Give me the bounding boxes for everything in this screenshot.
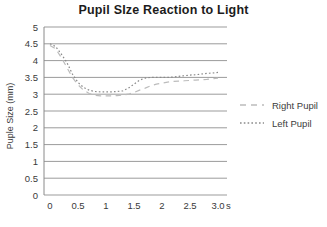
x-tick-label: 0.5 — [71, 200, 84, 211]
y-tick-label: 2.5 — [25, 106, 38, 117]
x-tick-label: 1.5 — [127, 200, 140, 211]
chart-legend: Right Pupil Left Pupil — [240, 99, 318, 129]
y-tick-label: 4 — [33, 55, 38, 66]
dashed-line-icon — [240, 103, 264, 107]
x-tick-label: 1 — [103, 200, 108, 211]
y-tick-label: 4.5 — [25, 38, 38, 49]
legend-label-left-pupil: Left Pupil — [272, 118, 312, 129]
y-tick-label: 2 — [33, 122, 38, 133]
y-tick-label: 1.5 — [25, 139, 38, 150]
legend-item-left-pupil: Left Pupil — [240, 117, 318, 129]
x-tick-label: 3.0 — [211, 200, 224, 211]
y-tick-label: 3 — [33, 89, 38, 100]
x-tick-label: 0 — [47, 200, 52, 211]
x-tick-label: 2 — [159, 200, 164, 211]
y-tick-label: 0.5 — [25, 173, 38, 184]
y-tick-label: 0 — [33, 190, 38, 201]
x-axis-unit-label: s — [226, 200, 231, 211]
x-tick-label: 2.5 — [183, 200, 196, 211]
series-line-left-pupil — [50, 44, 218, 92]
chart-canvas: Pupil SIze Reaction to Light Puple Size … — [0, 0, 327, 227]
y-tick-label: 3.5 — [25, 72, 38, 83]
dotted-line-icon — [240, 121, 264, 125]
series-line-right-pupil — [50, 45, 218, 95]
legend-item-right-pupil: Right Pupil — [240, 99, 318, 111]
y-tick-label: 1 — [33, 156, 38, 167]
y-tick-label: 5 — [33, 22, 38, 33]
legend-label-right-pupil: Right Pupil — [272, 100, 318, 111]
